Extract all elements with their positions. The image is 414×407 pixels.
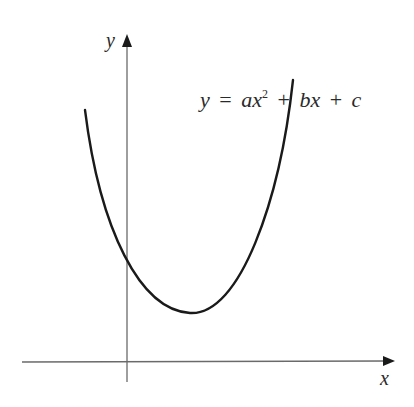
parabola-curve [85,80,293,313]
y-axis-label: y [104,29,115,52]
equation-label: y = ax2 + bx + c [198,78,362,112]
parabola-diagram: y x y = ax2 + bx + c [0,0,414,407]
y-axis-arrow-icon [122,34,132,47]
x-axis-arrow-icon [383,356,395,366]
x-axis-label: x [379,367,389,389]
x-axis [22,361,386,362]
